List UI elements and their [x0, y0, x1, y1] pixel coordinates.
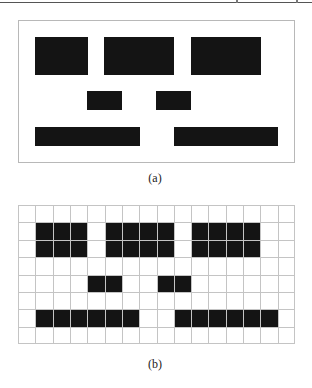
page-top-rule — [0, 2, 312, 3]
layout-block — [174, 127, 278, 146]
grid-line-horizontal — [18, 222, 295, 223]
grid-line-horizontal — [18, 240, 295, 241]
grid-line-horizontal — [18, 257, 295, 258]
grid-line-horizontal — [18, 205, 295, 206]
panel-a-caption: (a) — [135, 171, 175, 186]
layout-block — [104, 37, 174, 75]
grid-line-horizontal — [18, 309, 295, 310]
layout-block — [35, 37, 88, 75]
rule-tick — [236, 0, 238, 3]
grid-line-horizontal — [18, 343, 295, 344]
grid-line-horizontal — [18, 275, 295, 276]
grid-line-horizontal — [18, 292, 295, 293]
layout-block — [87, 91, 122, 110]
layout-block — [191, 37, 261, 75]
layout-block — [156, 91, 191, 110]
panel-b-grid — [18, 205, 295, 344]
panel-b-caption: (b) — [135, 357, 175, 372]
rule-tick — [296, 0, 298, 3]
layout-block — [35, 127, 140, 146]
grid-line-horizontal — [18, 327, 295, 328]
panel-a-layout — [18, 20, 295, 163]
